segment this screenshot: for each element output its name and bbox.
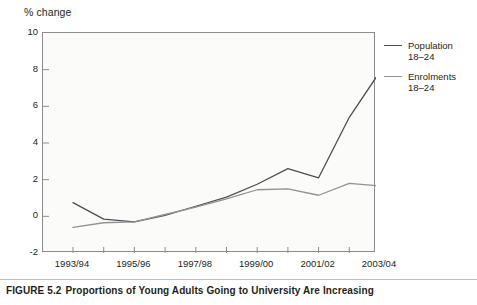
legend-label-secondary: 18–24 — [408, 82, 476, 93]
y-tick-label: 8 — [10, 64, 38, 74]
y-tick-label: 10 — [10, 27, 38, 37]
plot-lines-svg — [43, 33, 376, 253]
plot-area — [42, 32, 375, 252]
x-tick-label: 2001/02 — [300, 258, 334, 269]
legend-label-primary: Enrolments — [408, 71, 476, 82]
figure-caption-number: FIGURE 5.2 — [6, 285, 61, 296]
figure-container: % change 1086420-2 1993/941995/961997/98… — [0, 0, 477, 305]
x-tick-label: 1995/96 — [116, 258, 150, 269]
x-tick-label: 1993/94 — [55, 258, 89, 269]
y-tick-label: 2 — [10, 174, 38, 184]
legend-label-secondary: 18–24 — [408, 51, 476, 62]
figure-caption-text: Proportions of Young Adults Going to Uni… — [65, 285, 373, 296]
legend-item-enrolments: Enrolments18–24 — [384, 71, 476, 93]
legend-line-swatch-icon — [384, 76, 402, 77]
legend-label-primary: Population — [408, 40, 476, 51]
legend-item-population: Population18–24 — [384, 40, 476, 62]
figure-caption: FIGURE 5.2Proportions of Young Adults Go… — [6, 285, 374, 296]
chart-legend: Population18–24Enrolments18–24 — [384, 40, 476, 102]
x-tick-label: 2003/04 — [362, 258, 396, 269]
x-tick-label: 1999/00 — [239, 258, 273, 269]
x-axis-tick-labels: 1993/941995/961997/981999/002001/022003/… — [0, 258, 477, 274]
y-tick-label: 6 — [10, 100, 38, 110]
legend-line-swatch-icon — [384, 45, 402, 46]
x-tick-label: 1997/98 — [178, 258, 212, 269]
y-tick-label: -2 — [10, 247, 38, 257]
caption-divider — [0, 279, 477, 280]
y-tick-label: 4 — [10, 137, 38, 147]
y-tick-label: 0 — [10, 210, 38, 220]
